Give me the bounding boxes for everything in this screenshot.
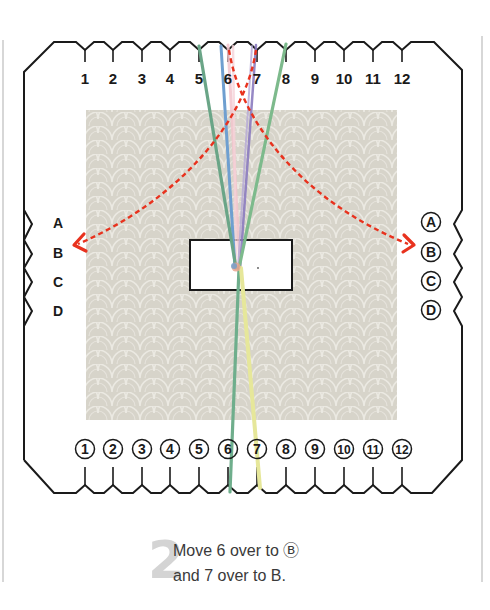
- svg-text:2: 2: [109, 441, 117, 457]
- right-slot-label-B: B: [422, 243, 441, 262]
- left-slot-label-A: A: [53, 215, 63, 231]
- svg-text:6: 6: [224, 441, 232, 457]
- bottom-slot-label-9: 9: [306, 440, 325, 459]
- bottom-slot-label-3: 3: [133, 440, 152, 459]
- top-slot-label-4: 4: [166, 70, 175, 87]
- svg-text:D: D: [426, 302, 436, 318]
- top-slot-labels: 123456789101112: [81, 70, 411, 87]
- left-slot-labels: ABCD: [53, 215, 63, 319]
- bottom-slot-label-6: 6: [219, 440, 238, 459]
- svg-text:A: A: [426, 214, 436, 230]
- bottom-slot-label-5: 5: [190, 440, 209, 459]
- bottom-slot-label-4: 4: [161, 440, 180, 459]
- svg-text:8: 8: [282, 441, 290, 457]
- left-slot-label-B: B: [53, 245, 63, 261]
- svg-text:7: 7: [253, 441, 261, 457]
- bottom-slot-label-11: 11: [364, 440, 383, 459]
- svg-text:4: 4: [166, 441, 174, 457]
- left-slot-label-D: D: [53, 303, 63, 319]
- top-slot-label-11: 11: [365, 70, 381, 87]
- center-dot: [257, 267, 259, 269]
- step-instructions: Move 6 over to Ⓑ and 7 over to B.: [173, 538, 299, 588]
- bottom-slot-label-8: 8: [277, 440, 296, 459]
- bottom-slot-label-1: 1: [76, 440, 95, 459]
- svg-text:5: 5: [195, 441, 203, 457]
- top-slot-label-1: 1: [81, 70, 89, 87]
- top-slot-label-9: 9: [311, 70, 319, 87]
- top-slot-label-8: 8: [282, 70, 290, 87]
- step-caption: 2 Move 6 over to Ⓑ and 7 over to B.: [148, 536, 408, 592]
- right-slot-label-C: C: [422, 272, 441, 291]
- bottom-slot-labels: 123456789101112: [76, 440, 412, 459]
- top-slot-label-6: 6: [224, 70, 232, 87]
- svg-text:11: 11: [367, 443, 380, 457]
- step-line-2: and 7 over to B.: [173, 563, 299, 588]
- left-zigzag-edge: [24, 205, 32, 326]
- svg-text:B: B: [426, 244, 436, 260]
- svg-text:9: 9: [311, 441, 319, 457]
- bottom-slot-label-2: 2: [104, 440, 123, 459]
- bottom-slot-label-12: 12: [393, 440, 412, 459]
- step-line-1: Move 6 over to Ⓑ: [173, 538, 299, 563]
- svg-text:C: C: [426, 273, 436, 289]
- top-slot-label-2: 2: [109, 70, 117, 87]
- bottom-slot-label-7: 7: [248, 440, 267, 459]
- left-slot-label-C: C: [53, 274, 63, 290]
- kumihimo-disk-diagram: 123456789101112 123456789101112 ABCD ABC…: [0, 0, 490, 610]
- bottom-slot-label-10: 10: [335, 440, 354, 459]
- top-slot-label-12: 12: [394, 70, 411, 87]
- top-slot-label-5: 5: [195, 70, 203, 87]
- svg-text:10: 10: [337, 443, 351, 457]
- svg-text:1: 1: [81, 441, 89, 457]
- right-slot-labels: ABCD: [422, 213, 441, 320]
- svg-text:3: 3: [138, 441, 146, 457]
- top-slot-label-10: 10: [336, 70, 353, 87]
- top-slot-label-7: 7: [253, 70, 261, 87]
- thread-knot-2: [231, 263, 237, 269]
- right-slot-label-A: A: [422, 213, 441, 232]
- top-slot-label-3: 3: [138, 70, 146, 87]
- svg-text:12: 12: [395, 443, 409, 457]
- right-slot-label-D: D: [422, 301, 441, 320]
